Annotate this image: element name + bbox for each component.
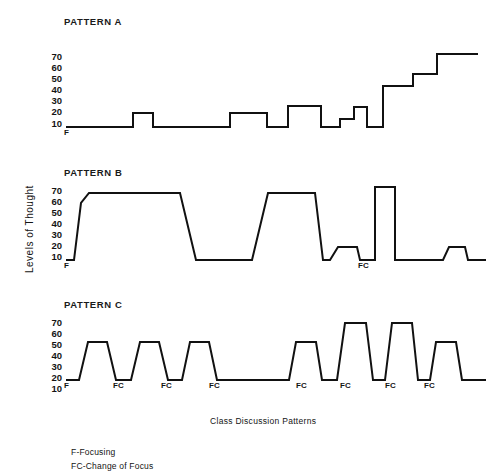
marker-c-fc-4: FC: [296, 382, 307, 390]
trace-pattern-a: [0, 0, 498, 155]
figure-root: PATTERN A 70 60 50 40 30 20 10 F PATTERN…: [0, 0, 498, 473]
marker-b-f: F: [64, 262, 69, 270]
marker-a-f: F: [64, 129, 69, 137]
x-axis-label: Class Discussion Patterns: [210, 416, 316, 426]
marker-c-fc-5: FC: [340, 382, 351, 390]
marker-c-fc-3: FC: [209, 382, 220, 390]
marker-c-fc-2: FC: [161, 382, 172, 390]
legend-item-change-of-focus: FC-Change of Focus: [71, 461, 154, 471]
marker-c-fc-1: FC: [113, 382, 124, 390]
trace-pattern-b: [0, 155, 498, 285]
panel-pattern-c: PATTERN C 70 60 50 40 30 20 10 F FC FC F…: [0, 285, 498, 405]
panel-pattern-b: PATTERN B Levels of Thought 70 60 50 40 …: [0, 155, 498, 285]
marker-c-fc-6: FC: [385, 382, 396, 390]
marker-b-fc-1: FC: [358, 262, 369, 270]
marker-c-f: F: [64, 382, 69, 390]
panel-pattern-a: PATTERN A 70 60 50 40 30 20 10 F: [0, 0, 498, 155]
marker-c-fc-7: FC: [424, 382, 435, 390]
legend-item-focusing: F-Focusing: [71, 447, 116, 457]
